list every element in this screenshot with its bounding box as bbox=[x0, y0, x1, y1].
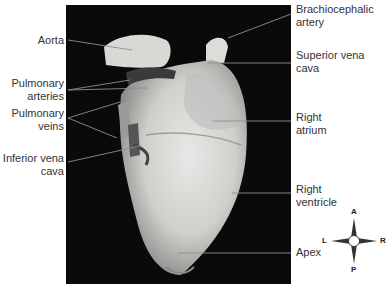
label-inferior-vena-cava: Inferior vena cava bbox=[0, 152, 64, 177]
label-right-atrium: Right atrium bbox=[296, 111, 346, 136]
compass-posterior: P bbox=[351, 265, 356, 274]
label-superior-vena-cava: Superior vena cava bbox=[296, 49, 376, 74]
compass-anterior: A bbox=[351, 207, 357, 216]
label-aorta: Aorta bbox=[38, 34, 64, 47]
label-right-ventricle: Right ventricle bbox=[296, 183, 356, 208]
compass-right: R bbox=[380, 236, 386, 245]
compass-left: L bbox=[322, 236, 327, 245]
orientation-compass: A P L R bbox=[321, 208, 387, 274]
label-pulmonary-arteries: Pulmonary arteries bbox=[0, 77, 64, 102]
label-apex: Apex bbox=[296, 246, 321, 259]
label-pulmonary-veins: Pulmonary veins bbox=[0, 107, 64, 132]
label-brachiocephalic-artery: Brachiocephalic artery bbox=[296, 3, 386, 28]
